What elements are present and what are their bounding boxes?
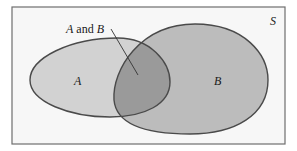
universe-label: S [270,14,276,28]
intersection-label: A and B [65,22,105,36]
venn-diagram: S A B A and B [0,0,297,151]
set-b-label: B [214,74,222,88]
set-a-label: A [73,74,82,88]
